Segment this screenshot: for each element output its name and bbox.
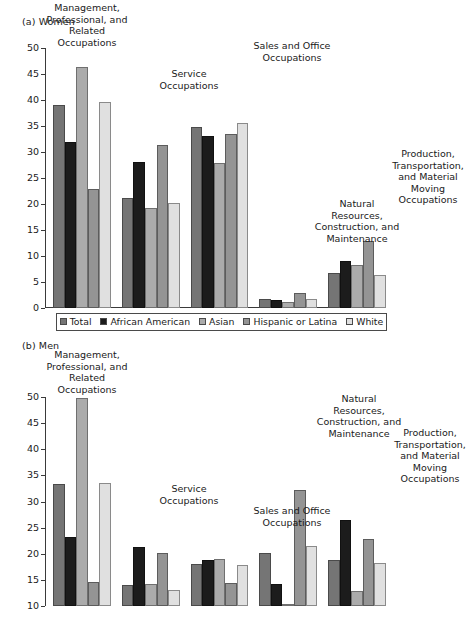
bar [340,520,352,606]
bar [88,189,100,308]
bar [328,560,340,606]
y-axis-tick-label: 35 [27,471,39,481]
bar [65,537,77,606]
category-label: Sales and Office Occupations [217,505,367,528]
bar [328,273,340,308]
bar [99,483,111,606]
bar [259,553,271,606]
bar [191,564,203,606]
y-axis-tick [41,308,45,309]
category-label: Service Occupations [131,483,247,506]
bar [374,563,386,606]
legend-label: Hispanic or Latina [253,317,337,326]
y-axis-tick-label: 15 [27,225,39,235]
bar [363,241,375,308]
legend-item: Total [60,317,92,326]
bar [363,539,375,606]
bar [306,299,318,308]
bar [294,293,306,308]
bar [306,546,318,606]
legend-label: African American [110,317,190,326]
bar [225,583,237,606]
legend-swatch-icon [100,318,107,325]
bar [99,102,111,308]
bar [53,105,65,308]
bar [202,136,214,308]
bar [259,299,271,308]
bar [157,145,169,308]
bar [76,398,88,606]
y-axis-tick-label: 0 [33,303,39,313]
bar [214,559,226,606]
legend-item: White [346,317,383,326]
bar [53,484,65,606]
bar [271,300,283,308]
y-axis-tick-label: 30 [27,497,39,507]
panel-men: (b) Men 101520253035404550 Management, P… [0,335,396,622]
bar [340,261,352,308]
category-label: Sales and Office Occupations [217,40,367,63]
y-axis-tick-label: 45 [27,418,39,428]
bar [225,134,237,308]
legend-swatch-icon [346,318,353,325]
bar [168,590,180,606]
bar [214,163,226,308]
y-axis-tick-label: 20 [27,199,39,209]
y-axis-tick-label: 15 [27,575,39,585]
legend-swatch-icon [60,318,67,325]
bar [374,275,386,308]
bar [351,591,363,606]
y-axis-tick-label: 5 [33,277,39,287]
category-label: Production, Transportation, and Material… [365,148,470,206]
bar [122,198,134,308]
bar [65,142,77,308]
category-label: Management, Professional, and Related Oc… [29,2,145,48]
y-axis-tick-label: 45 [27,69,39,79]
bar [282,302,294,308]
bar [282,604,294,606]
plot-area-women: 05101520253035404550 Management, Profess… [45,48,386,308]
y-axis-tick-label: 20 [27,549,39,559]
y-axis-tick [41,606,45,607]
y-axis-tick-label: 40 [27,95,39,105]
bar [271,584,283,606]
bar [157,553,169,606]
bar [145,208,157,308]
legend-item: African American [100,317,190,326]
bar [351,265,363,308]
bar [202,560,214,607]
bar [145,584,157,606]
legend-swatch-icon [243,318,250,325]
plot-area-men: 101520253035404550 Management, Professio… [45,397,386,606]
bar [88,582,100,606]
bar [133,162,145,308]
bar [237,123,249,308]
legend: TotalAfrican AmericanAsianHispanic or La… [56,313,387,331]
bar [237,565,249,606]
bar [168,203,180,308]
legend-label: Asian [209,317,234,326]
legend-swatch-icon [199,318,206,325]
bar-group [53,48,111,308]
y-axis-tick-label: 10 [27,601,39,611]
bar-group [259,48,317,308]
legend-label: Total [70,317,92,326]
y-axis-tick-label: 25 [27,523,39,533]
panel-women: (a) Women 05101520253035404550 Managemen… [0,0,396,335]
y-axis-tick-label: 30 [27,147,39,157]
bar-group [53,397,111,606]
bar [133,547,145,606]
legend-item: Asian [199,317,234,326]
legend-item: Hispanic or Latina [243,317,337,326]
bar [122,585,134,606]
category-label: Production, Transportation, and Material… [367,427,470,485]
y-axis-tick-label: 35 [27,121,39,131]
category-label: Management, Professional, and Related Oc… [29,349,145,395]
legend-label: White [356,317,383,326]
bar [76,67,88,308]
y-axis-tick-label: 40 [27,445,39,455]
category-label: Service Occupations [131,68,247,91]
bar [191,127,203,308]
y-axis-tick-label: 10 [27,251,39,261]
